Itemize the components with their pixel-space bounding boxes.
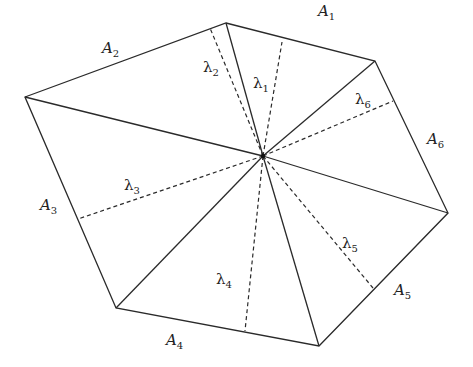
label-A3: A3 — [38, 196, 57, 216]
label-lambda4: λ4 — [216, 270, 232, 290]
lambda5-altitude — [263, 156, 373, 288]
spoke-2 — [263, 61, 375, 156]
labels: A1A2A3A4A5A6λ1λ2λ3λ4λ5λ6 — [38, 2, 444, 351]
spoke-4 — [263, 156, 319, 346]
spoke-6 — [25, 97, 263, 156]
label-A6: A6 — [425, 130, 444, 150]
spoke-5 — [116, 156, 263, 308]
hexagon-triangulation-diagram: A1A2A3A4A5A6λ1λ2λ3λ4λ5λ6 — [0, 0, 473, 367]
label-lambda3: λ3 — [124, 176, 140, 196]
label-A5: A5 — [392, 281, 411, 301]
label-A2: A2 — [100, 39, 119, 59]
hexagon-outline — [25, 23, 448, 346]
label-A4: A4 — [164, 331, 183, 351]
label-lambda1: λ1 — [253, 74, 269, 94]
lambda3-altitude — [78, 156, 263, 219]
label-lambda2: λ2 — [203, 58, 219, 78]
label-A1: A1 — [316, 2, 335, 22]
lambda4-altitude — [245, 156, 263, 331]
center-point — [261, 154, 265, 158]
spokes-to-center — [25, 23, 448, 346]
lambda2-altitude — [210, 28, 263, 156]
lambda6-altitude — [263, 101, 393, 156]
lambda1-altitude — [263, 42, 282, 156]
label-lambda6: λ6 — [355, 90, 371, 110]
outer-edges — [25, 23, 448, 346]
label-lambda5: λ5 — [342, 234, 358, 254]
spoke-3 — [263, 156, 448, 213]
